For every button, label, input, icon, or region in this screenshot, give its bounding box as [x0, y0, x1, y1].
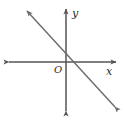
origin-label: O	[54, 64, 62, 75]
y-axis-label: y	[71, 7, 79, 20]
x-axis-label: x	[106, 65, 113, 78]
coordinate-plane-figure: y x O	[0, 0, 125, 120]
plotted-line	[27, 11, 115, 107]
coordinate-plane-svg: y x O	[0, 0, 125, 120]
